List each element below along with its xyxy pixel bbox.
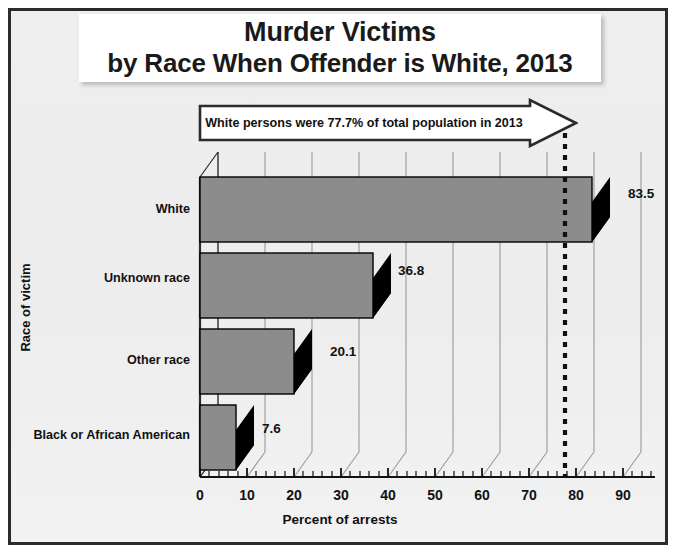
category-label-white: White	[156, 202, 190, 216]
x-axis-title: Percent of arrests	[0, 512, 680, 527]
chart-root: White persons were 77.7% of total popula…	[0, 0, 680, 553]
xtick-label-0: 0	[196, 487, 204, 503]
value-label-black-or-african-american: 7.6	[262, 421, 281, 436]
category-label-black-or-african-american: Black or African American	[33, 428, 190, 442]
xtick-label-70: 70	[521, 487, 537, 503]
annotation-callout: White persons were 77.7% of total popula…	[198, 98, 578, 148]
category-label-other-race: Other race	[127, 353, 190, 367]
xtick-label-50: 50	[427, 487, 443, 503]
category-label-unknown-race: Unknown race	[104, 271, 190, 285]
value-label-unknown-race: 36.8	[398, 263, 424, 278]
value-label-other-race: 20.1	[330, 344, 356, 359]
annotation-text: White persons were 77.7% of total popula…	[214, 98, 514, 148]
xtick-label-30: 30	[333, 487, 349, 503]
xtick-label-90: 90	[615, 487, 631, 503]
xtick-label-10: 10	[239, 487, 255, 503]
chart-title-box: Murder Victims by Race When Offender is …	[79, 14, 601, 82]
xtick-label-80: 80	[568, 487, 584, 503]
y-axis-title: Race of victim	[18, 248, 33, 368]
chart-title-line-2: by Race When Offender is White, 2013	[107, 48, 572, 79]
xtick-label-60: 60	[474, 487, 490, 503]
xtick-label-40: 40	[380, 487, 396, 503]
xtick-label-20: 20	[286, 487, 302, 503]
value-label-white: 83.5	[628, 186, 654, 201]
chart-title-line-1: Murder Victims	[244, 17, 436, 48]
